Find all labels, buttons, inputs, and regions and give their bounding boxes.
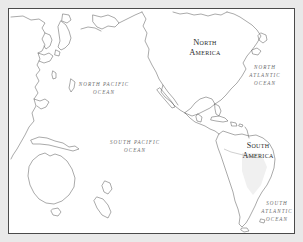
label-north-america-line1: North bbox=[193, 38, 217, 47]
label-south-pacific-line1: SOUTH PACIFIC bbox=[110, 139, 160, 145]
coastline-nova-scotia bbox=[252, 48, 261, 55]
island-japan-honshu bbox=[58, 21, 71, 50]
coastline-bering-strait bbox=[119, 12, 142, 23]
island-tierra-del-fuego bbox=[241, 228, 249, 232]
label-south-atlantic-line1: SOUTH bbox=[266, 200, 288, 206]
coastline-great-lakes-region bbox=[173, 12, 227, 16]
island-newfoundland bbox=[258, 33, 267, 43]
coastline-central-america bbox=[185, 113, 219, 134]
island-tasmania bbox=[51, 208, 61, 216]
label-north-atlantic-line2: ATLANTIC bbox=[248, 72, 280, 78]
label-north-pacific-line1: NORTH PACIFIC bbox=[78, 81, 130, 87]
label-north-atlantic-ocean: NORTH ATLANTIC OCEAN bbox=[248, 64, 280, 86]
coastline-north-america-east bbox=[215, 12, 261, 104]
coastline-florida bbox=[215, 104, 221, 116]
label-north-atlantic-line1: NORTH bbox=[253, 64, 276, 70]
label-north-pacific-line2: OCEAN bbox=[93, 89, 115, 95]
coastline-yellow-sea-bay bbox=[38, 53, 53, 63]
island-cuba bbox=[211, 116, 228, 122]
label-north-america: North America bbox=[189, 38, 221, 57]
island-hispaniola bbox=[231, 122, 237, 126]
island-puerto-rico bbox=[239, 124, 243, 127]
coastline-east-asia bbox=[11, 16, 45, 159]
label-south-atlantic-ocean: SOUTH ATLANTIC OCEAN bbox=[260, 200, 292, 222]
label-north-america-line2: America bbox=[189, 48, 221, 57]
label-north-pacific-ocean: NORTH PACIFIC OCEAN bbox=[78, 81, 130, 95]
label-south-atlantic-line3: OCEAN bbox=[266, 216, 288, 222]
landmass-australia bbox=[28, 153, 75, 204]
island-new-zealand-north bbox=[102, 181, 112, 194]
island-japan-hokkaido bbox=[62, 14, 71, 23]
coastline-gulf-of-california bbox=[163, 85, 178, 105]
map-figure: North America South America NORTH PACIFI… bbox=[0, 0, 303, 242]
coastline-southeast-asia bbox=[34, 99, 49, 109]
island-lesser-antilles bbox=[245, 127, 249, 138]
coastline-korea-peninsula bbox=[44, 33, 52, 49]
label-south-pacific-line2: OCEAN bbox=[124, 147, 146, 153]
island-taiwan bbox=[52, 71, 56, 79]
world-map-graphic: North America South America NORTH PACIFI… bbox=[9, 9, 294, 233]
coastline-gulf-of-mexico bbox=[185, 97, 215, 116]
island-new-guinea bbox=[31, 137, 79, 151]
map-frame: North America South America NORTH PACIFI… bbox=[8, 8, 295, 234]
island-falklands bbox=[260, 219, 265, 223]
island-japan-kyushu bbox=[55, 50, 60, 56]
peninsula-yucatan bbox=[196, 114, 202, 122]
island-new-zealand-south bbox=[94, 197, 111, 218]
label-south-america-line2: America bbox=[242, 151, 274, 160]
label-south-america: South America bbox=[242, 141, 274, 160]
label-south-pacific-ocean: SOUTH PACIFIC OCEAN bbox=[110, 139, 160, 153]
island-philippines bbox=[69, 79, 75, 92]
label-south-atlantic-line2: ATLANTIC bbox=[260, 208, 292, 214]
label-south-america-line1: South bbox=[247, 141, 270, 150]
coastline-alaska bbox=[93, 15, 119, 29]
label-north-atlantic-line3: OCEAN bbox=[254, 80, 276, 86]
